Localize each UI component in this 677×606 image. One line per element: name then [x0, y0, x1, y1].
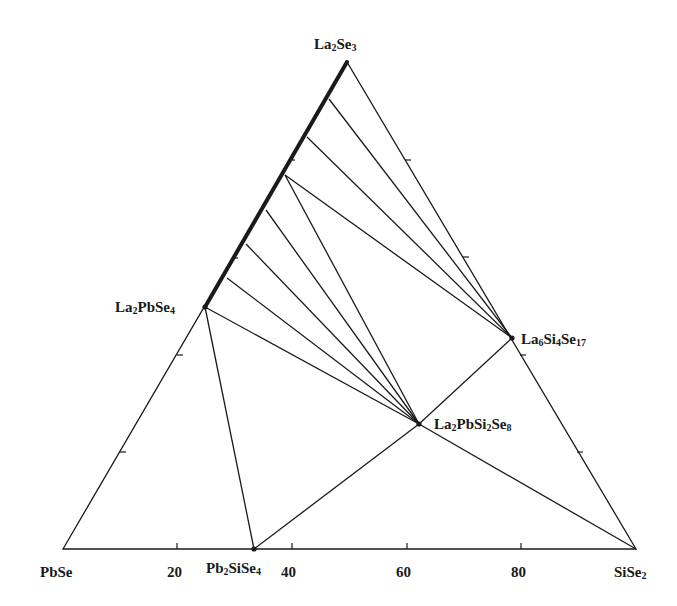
- phase-label-La2PbSi2Se8: La2PbSi2Se8: [434, 416, 512, 433]
- tie-lines-to-La6Si4Se17: [285, 99, 512, 338]
- vertex-label-bottom-right: SiSe2: [614, 564, 647, 581]
- tie-La2PbSe4-Pb2SiSe4: [205, 307, 254, 549]
- phase-label-Pb2SiSe4: Pb2SiSe4: [206, 560, 261, 577]
- tick-label-20: 20: [167, 564, 182, 580]
- tick-label-60: 60: [396, 564, 411, 580]
- solid-solution-segment: [205, 62, 347, 307]
- point-La2PbSe4: [202, 304, 207, 309]
- tie-La2PbSi2Se8-SiSe2: [419, 424, 636, 549]
- phase-label-La6Si4Se17: La6Si4Se17: [521, 331, 586, 348]
- point-La6Si4Se17: [509, 335, 514, 340]
- tick-label-80: 80: [511, 564, 526, 580]
- phase-label-La2PbSe4: La2PbSe4: [115, 299, 175, 316]
- point-Pb2SiSe4: [251, 546, 256, 551]
- tie-lines-to-La2PbSi2Se8: [205, 175, 419, 424]
- tick-label-40: 40: [281, 564, 296, 580]
- tie-Pb2SiSe4-La2PbSi2Se8: [254, 424, 419, 549]
- vertex-label-bottom-left: PbSe: [40, 564, 73, 580]
- tie-La2PbSi2Se8-La6Si4Se17: [419, 338, 512, 424]
- point-La2PbSi2Se8: [416, 421, 421, 426]
- ternary-phase-diagram: La2Se3 PbSe SiSe2 La2PbSe4 La6Si4Se17 La…: [0, 0, 677, 606]
- bottom-axis-ticks: [177, 543, 521, 549]
- vertex-label-top: La2Se3: [314, 36, 357, 53]
